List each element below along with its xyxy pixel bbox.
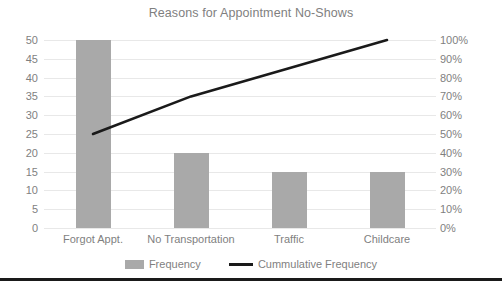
y-tick-left: 20 (26, 148, 38, 159)
y-axis-left: 50454035302520151050 (0, 40, 38, 228)
y-tick-left: 35 (26, 91, 38, 102)
y-tick-left: 5 (32, 204, 38, 215)
legend-label-cumulative: Cummulative Frequency (258, 258, 377, 270)
y-tick-right: 10% (440, 204, 462, 215)
y-tick-left: 15 (26, 167, 38, 178)
chart-legend: Frequency Cummulative Frequency (0, 258, 502, 270)
y-tick-left: 30 (26, 110, 38, 121)
legend-line-swatch (229, 263, 253, 266)
plot-area (44, 40, 436, 228)
legend-bar-swatch (125, 260, 144, 269)
gridline (44, 228, 436, 229)
y-tick-right: 0% (440, 223, 456, 234)
y-tick-right: 20% (440, 185, 462, 196)
y-tick-right: 50% (440, 129, 462, 140)
y-tick-left: 0 (32, 223, 38, 234)
y-axis-right: 100%90%80%70%60%50%40%30%20%10%0% (440, 40, 496, 228)
legend-item-frequency: Frequency (125, 258, 201, 270)
bottom-border (0, 278, 502, 281)
x-tick-label: No Transportation (147, 233, 234, 245)
x-tick-label: Childcare (364, 233, 410, 245)
y-tick-right: 40% (440, 148, 462, 159)
y-tick-left: 10 (26, 185, 38, 196)
y-tick-left: 50 (26, 35, 38, 46)
y-tick-left: 45 (26, 54, 38, 65)
y-tick-right: 70% (440, 91, 462, 102)
legend-label-frequency: Frequency (149, 258, 201, 270)
x-tick-label: Forgot Appt. (63, 233, 123, 245)
x-axis: Forgot Appt.No TransportationTrafficChil… (44, 233, 436, 251)
x-tick-label: Traffic (274, 233, 304, 245)
cumulative-line-layer (44, 40, 436, 228)
cumulative-line (93, 40, 387, 134)
y-tick-right: 100% (440, 35, 468, 46)
legend-item-cumulative: Cummulative Frequency (229, 258, 377, 270)
pareto-chart: Reasons for Appointment No-Shows 5045403… (0, 0, 502, 293)
y-tick-right: 60% (440, 110, 462, 121)
y-tick-left: 40 (26, 73, 38, 84)
y-tick-right: 80% (440, 73, 462, 84)
y-tick-right: 30% (440, 167, 462, 178)
y-tick-right: 90% (440, 54, 462, 65)
y-tick-left: 25 (26, 129, 38, 140)
chart-title: Reasons for Appointment No-Shows (0, 6, 502, 20)
